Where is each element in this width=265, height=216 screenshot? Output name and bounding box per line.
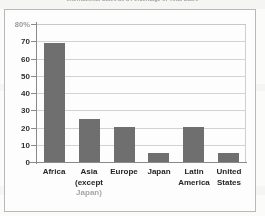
x-axis-label-line: Japan) [70, 188, 108, 199]
x-axis-label-line: Japan [140, 167, 178, 178]
scanned-page: International Sales as a Percentage of T… [0, 0, 265, 216]
y-axis-label: 60 [0, 55, 30, 64]
x-axis-category-label: LatinAmerica [175, 167, 213, 188]
x-axis-label-line: Europe [105, 167, 143, 178]
bars-container [37, 24, 246, 162]
bar [148, 153, 169, 162]
x-axis-label-line: States [210, 178, 248, 189]
x-axis-label-line: (except [70, 178, 108, 189]
bar [79, 119, 100, 162]
y-axis-label: 70 [0, 37, 30, 46]
x-axis-label-line: America [175, 178, 213, 189]
x-axis-label-line: Africa [35, 167, 73, 178]
y-axis-label: 30 [0, 106, 30, 115]
x-axis-category-label: Europe [105, 167, 143, 178]
x-axis-labels: AfricaAsia(exceptJapan)EuropeJapanLatinA… [30, 167, 252, 213]
bar [44, 43, 65, 162]
x-axis-category-label: UnitedStates [210, 167, 248, 188]
bar [218, 153, 239, 162]
x-axis-label-line: United [210, 167, 248, 178]
x-axis-category-label: Japan [140, 167, 178, 178]
y-axis-label: 10 [0, 141, 30, 150]
y-axis-label: 40 [0, 89, 30, 98]
bar [183, 127, 204, 162]
y-axis-label: 20 [0, 124, 30, 133]
x-axis-label-line: Latin [175, 167, 213, 178]
y-axis-label: 50 [0, 72, 30, 81]
y-axis-label: 0 [0, 158, 30, 167]
chart-title: International Sales as a Percentage of T… [0, 0, 265, 2]
bar [114, 127, 135, 162]
x-axis-category-label: Asia(exceptJapan) [70, 167, 108, 199]
y-axis-label: 80% [0, 20, 30, 29]
x-axis-label-line: Asia [70, 167, 108, 178]
x-axis-line [30, 162, 247, 163]
x-axis-category-label: Africa [35, 167, 73, 178]
